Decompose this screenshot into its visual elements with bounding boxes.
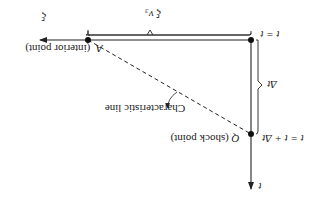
point-a-label: A (interior point): [25, 42, 104, 55]
point-a-letter: A: [96, 43, 104, 55]
bracket-tip: [147, 30, 153, 35]
point-q-letter: Q: [232, 133, 240, 145]
vertical-bracket: [256, 40, 262, 134]
vertical-bracket-label: Δt: [266, 79, 277, 91]
point-q-marker: [248, 131, 254, 137]
point-q-label: Q (shock point): [170, 132, 239, 145]
characteristic-line-label: Characteristic line: [105, 103, 185, 115]
characteristic-line: [88, 40, 251, 134]
t-axis-label: t: [258, 181, 262, 193]
point-a-marker: [85, 37, 91, 43]
xi-axis-label: ξ: [41, 11, 46, 24]
horizontal-bracket-label: ξ v₃: [145, 8, 161, 21]
shock-time-label: t = t + Δt: [261, 133, 303, 145]
characteristic-diagram: ξ A (interior point) ξ v₃ t = t Δt Chara…: [0, 0, 317, 201]
point-q-description: (shock point): [170, 132, 229, 145]
horizontal-bracket: [86, 30, 251, 35]
corner-point-marker: [248, 37, 254, 43]
point-a-description: (interior point): [25, 42, 90, 55]
diagram-canvas: ξ A (interior point) ξ v₃ t = t Δt Chara…: [0, 0, 317, 201]
corner-time-label: t = t: [260, 29, 280, 41]
